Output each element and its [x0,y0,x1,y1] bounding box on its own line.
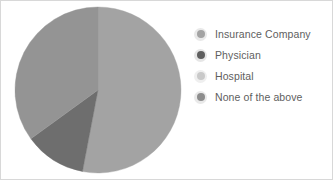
legend-item-hospital[interactable]: Hospital [191,67,331,85]
legend-swatch-icon-insurance-company [194,28,207,41]
legend-swatch-icon-physician [194,49,207,62]
legend-item-physician[interactable]: Physician [191,46,331,64]
legend-label-hospital: Hospital [215,70,254,83]
pie-chart-graphic[interactable] [12,4,184,176]
legend-label-insurance-company: Insurance Company [215,28,311,41]
legend-item-none-of-the-above[interactable]: None of the above [191,88,331,106]
legend-item-insurance-company[interactable]: Insurance Company [191,25,331,43]
legend-swatch-icon-hospital [194,70,207,83]
legend-swatch-icon-none-of-the-above [194,91,207,104]
chart-legend: Insurance Company Physician Hospital Non… [191,25,331,109]
pie-plot-area [1,1,191,179]
pie-chart-frame: Insurance Company Physician Hospital Non… [0,0,333,180]
legend-label-none-of-the-above: None of the above [215,91,303,104]
legend-label-physician: Physician [215,49,261,62]
